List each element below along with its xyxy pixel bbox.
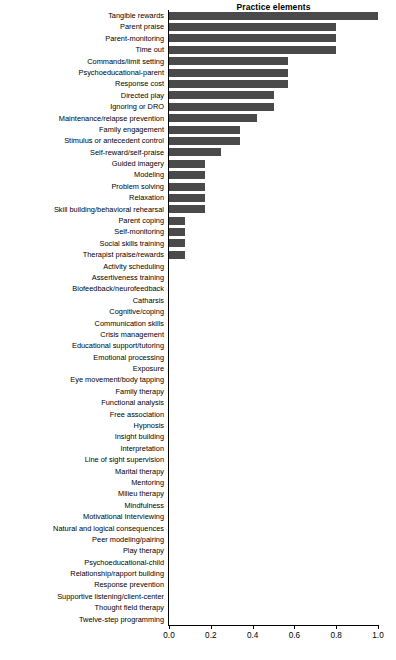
bar-row (169, 261, 378, 272)
bar-row (169, 500, 378, 511)
bar-row (169, 113, 378, 124)
category-label: Response prevention (0, 579, 164, 590)
x-axis-tick (253, 625, 254, 629)
bar (169, 103, 274, 111)
category-label: Mindfulness (0, 500, 164, 511)
bar (169, 171, 205, 179)
category-label: Commands/limit setting (0, 56, 164, 67)
category-label: Play therapy (0, 545, 164, 556)
category-label: Supportive listening/client-center (0, 591, 164, 602)
bar-row (169, 340, 378, 351)
category-label: Eye movement/body tapping (0, 374, 164, 385)
bar (169, 91, 274, 99)
x-axis-line (168, 625, 378, 626)
bar (169, 34, 336, 42)
bar-row (169, 534, 378, 545)
category-label: Functional analysis (0, 397, 164, 408)
category-label: Family engagement (0, 124, 164, 135)
category-label: Skill building/behavioral rehearsal (0, 204, 164, 215)
category-label: Cognitive/coping (0, 306, 164, 317)
bar-row (169, 579, 378, 590)
bar-row (169, 124, 378, 135)
category-label: Maintenance/relapse prevention (0, 113, 164, 124)
bar (169, 205, 205, 213)
bar (169, 80, 288, 88)
category-label: Biofeedback/neurofeedback (0, 283, 164, 294)
category-label: Modeling (0, 169, 164, 180)
category-label: Guided imagery (0, 158, 164, 169)
category-label: Psychoeducational-child (0, 557, 164, 568)
bar-row (169, 238, 378, 249)
bar-row (169, 67, 378, 78)
bar (169, 57, 288, 65)
bar-row (169, 363, 378, 374)
bar (169, 46, 336, 54)
bar-row (169, 614, 378, 625)
category-label: Parent coping (0, 215, 164, 226)
category-label: Communication skills (0, 318, 164, 329)
bar-row (169, 204, 378, 215)
category-label: Crisis management (0, 329, 164, 340)
bar (169, 228, 185, 236)
bar-row (169, 135, 378, 146)
bar-row (169, 226, 378, 237)
category-label: Interpretation (0, 443, 164, 454)
bar-row (169, 181, 378, 192)
category-label: Relationship/rapport building (0, 568, 164, 579)
category-label: Mentoring (0, 477, 164, 488)
bar-row (169, 33, 378, 44)
category-label: Therapist praise/rewards (0, 249, 164, 260)
category-label: Family therapy (0, 386, 164, 397)
category-label: Emotional processing (0, 352, 164, 363)
bar-row (169, 454, 378, 465)
bar (169, 239, 185, 247)
bar (169, 217, 185, 225)
x-axis-tick (211, 625, 212, 629)
category-label: Directed play (0, 90, 164, 101)
bar-row (169, 602, 378, 613)
category-label: Time out (0, 44, 164, 55)
bar (169, 114, 257, 122)
category-label: Assertiveness training (0, 272, 164, 283)
category-label: Tangible rewards (0, 10, 164, 21)
x-axis-tick (378, 625, 379, 629)
bar-row (169, 56, 378, 67)
bar-row (169, 511, 378, 522)
bar-row (169, 409, 378, 420)
bar (169, 137, 240, 145)
category-label: Natural and logical consequences (0, 523, 164, 534)
x-axis-tick-label: 0.0 (149, 631, 189, 640)
bar (169, 148, 221, 156)
bar-row (169, 466, 378, 477)
bar-row (169, 306, 378, 317)
bar-row (169, 329, 378, 340)
category-label: Response cost (0, 78, 164, 89)
bar-row (169, 192, 378, 203)
category-label: Self-monitoring (0, 226, 164, 237)
bar-row (169, 215, 378, 226)
bar-row (169, 10, 378, 21)
bar (169, 160, 205, 168)
category-label: Activity scheduling (0, 261, 164, 272)
bar (169, 69, 288, 77)
bar-row (169, 523, 378, 534)
category-label: Marital therapy (0, 466, 164, 477)
bar-row (169, 169, 378, 180)
bar-row (169, 44, 378, 55)
category-label: Problem solving (0, 181, 164, 192)
bar-row (169, 147, 378, 158)
bar-chart-figure: Practice elements Tangible rewardsParent… (0, 0, 396, 660)
x-axis-tick (169, 625, 170, 629)
category-label: Stimulus or antecedent control (0, 135, 164, 146)
bar (169, 194, 205, 202)
bar-row (169, 249, 378, 260)
category-label: Relaxation (0, 192, 164, 203)
category-label: Exposure (0, 363, 164, 374)
bar-row (169, 78, 378, 89)
bar-row (169, 591, 378, 602)
bar-row (169, 420, 378, 431)
bar-row (169, 101, 378, 112)
category-label: Insight building (0, 431, 164, 442)
bar-row (169, 21, 378, 32)
bar (169, 251, 185, 259)
